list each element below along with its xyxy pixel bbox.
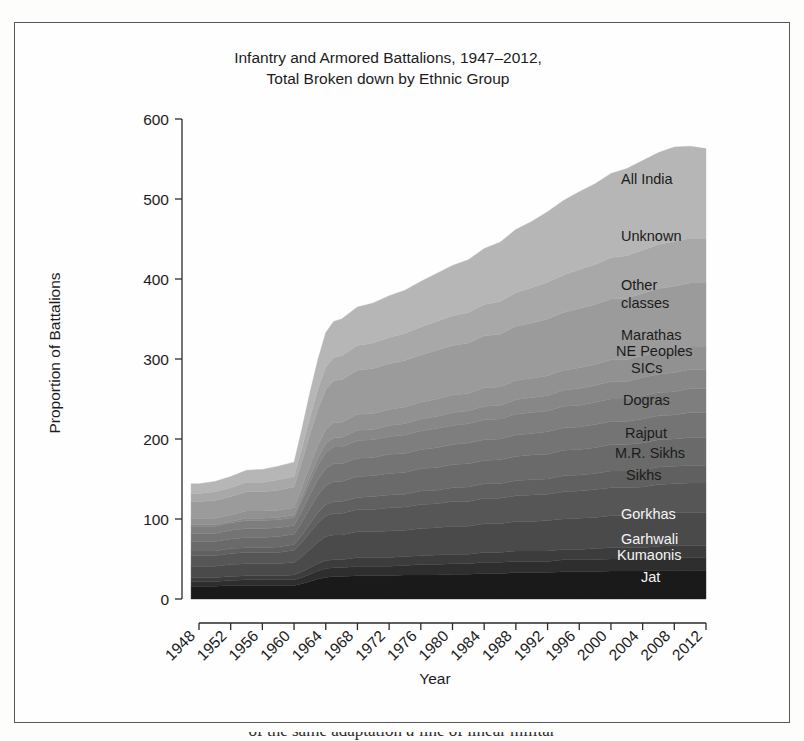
series-label: Garhwali [621,531,678,547]
series-label: Unknown [621,228,681,244]
x-tick-label: 2008 [637,627,673,663]
series-label: Dogras [623,392,670,408]
stacked-area-chart: Infantry and Armored Battalions, 1947–20… [15,23,791,724]
series-label: Gorkhas [621,506,676,522]
x-tick-label: 1960 [257,627,294,664]
x-axis-title: Year [419,670,450,687]
series-label: M.R. Sikhs [615,445,685,461]
x-tick-label: 1988 [479,627,515,663]
series-label: Other [621,277,657,293]
y-axis: 0100200300400500600 Proportion of Battal… [46,111,182,608]
series-label: Sikhs [626,467,661,483]
x-tick-label: 2000 [574,627,611,664]
page-caption-fragment: of the same adaptation a line of linear … [0,726,804,741]
x-tick-label: 1992 [510,627,546,663]
series-label: NE Peoples [616,343,693,359]
y-tick-label: 600 [143,111,169,128]
x-tick-label: 1976 [384,627,420,663]
x-tick-label: 1980 [415,627,452,664]
x-tick-label: 1964 [288,627,325,664]
chart-title: Infantry and Armored Battalions, 1947–20… [234,49,542,87]
series-label: All India [621,171,674,187]
series-label: Marathas [621,327,681,343]
x-tick-label: 1956 [225,627,261,663]
x-axis: 1948195219561960196419681972197619801984… [162,623,706,687]
x-tick-label: 1972 [352,627,388,663]
x-tick-label: 2004 [605,627,642,664]
series-label: Jat [641,569,660,585]
x-tick-label: 2012 [669,627,705,663]
x-tick-label: 1952 [193,627,229,663]
series-label: Rajput [625,425,667,441]
y-axis-title: Proportion of Battalions [46,272,63,433]
x-tick-label: 1996 [542,627,578,663]
series-label: SICs [631,360,662,376]
chart-title-line1: Infantry and Armored Battalions, 1947–20… [234,49,542,66]
chart-title-line2: Total Broken down by Ethnic Group [267,70,510,87]
y-tick-label: 0 [160,591,169,608]
x-tick-label: 1984 [447,627,484,664]
y-tick-label: 400 [143,271,169,288]
x-tick-label: 1948 [162,627,198,663]
y-tick-label: 200 [143,431,169,448]
series-label: Kumaonis [617,547,681,563]
y-tick-label: 500 [143,191,169,208]
y-tick-label: 300 [143,351,169,368]
x-tick-label: 1968 [320,627,356,663]
page-caption-fragment-text: of the same adaptation a line of linear … [0,726,804,741]
series-label: classes [621,295,669,311]
figure-frame: Infantry and Armored Battalions, 1947–20… [14,22,790,723]
y-tick-label: 100 [143,511,169,528]
scanned-page: Infantry and Armored Battalions, 1947–20… [0,0,804,741]
